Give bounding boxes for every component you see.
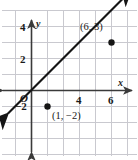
point-label-1-neg2: (1, −2): [52, 111, 81, 122]
x-tick-label-4: 4: [76, 95, 82, 106]
x-axis-label: x: [118, 78, 123, 88]
point-label-6-3: (6, 3): [80, 22, 103, 33]
y-tick-label-2: 2: [20, 54, 26, 65]
y-tick-label-4: 4: [20, 22, 26, 33]
data-point-marker: [44, 103, 50, 109]
y-axis-label: y: [36, 19, 40, 29]
x-tick-label-6: 6: [108, 95, 114, 106]
origin-label: O: [20, 93, 28, 104]
data-point-marker: [108, 39, 114, 45]
plot-area: 4 2 −2 4 6 O y x (6, 3) (1, −2): [0, 0, 138, 160]
coordinate-plane-figure: 4 2 −2 4 6 O y x (6, 3) (1, −2): [0, 0, 138, 160]
